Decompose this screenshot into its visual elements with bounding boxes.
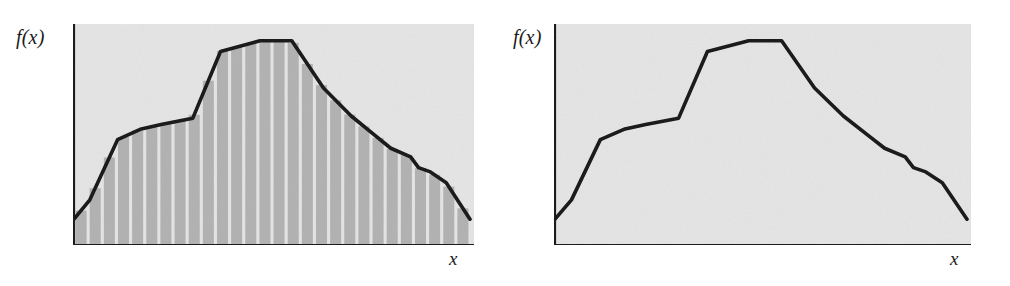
panel-unshaded: f(x) x	[505, 0, 1010, 286]
panel-shaded: f(x) x	[0, 0, 505, 286]
x-axis-label: x	[449, 248, 457, 270]
x-axis-label: x	[950, 248, 958, 270]
unshaded-curve-plot	[505, 0, 1010, 286]
y-axis-label: f(x)	[16, 26, 45, 49]
shaded-riemann-plot	[0, 0, 505, 286]
figure-root: f(x) x f(x) x	[0, 0, 1010, 286]
y-axis-label: f(x)	[513, 26, 542, 49]
